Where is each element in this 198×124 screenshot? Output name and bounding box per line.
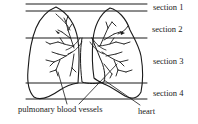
- section-1-label: section 1: [153, 3, 183, 12]
- heart-label: heart: [138, 107, 155, 116]
- section-2-label: section 2: [152, 25, 182, 34]
- vessels-leader-line-right: [79, 64, 117, 104]
- right-pulmonary-vessels: [98, 22, 132, 78]
- pulmonary-blood-vessels-label: pulmonary blood vessels: [18, 105, 103, 114]
- section-3-label: section 3: [153, 57, 183, 66]
- heart-leader-line: [104, 80, 140, 105]
- right-lung-outline: [92, 8, 142, 98]
- section-4-label: section 4: [153, 89, 183, 98]
- left-pulmonary-vessels: [46, 16, 76, 76]
